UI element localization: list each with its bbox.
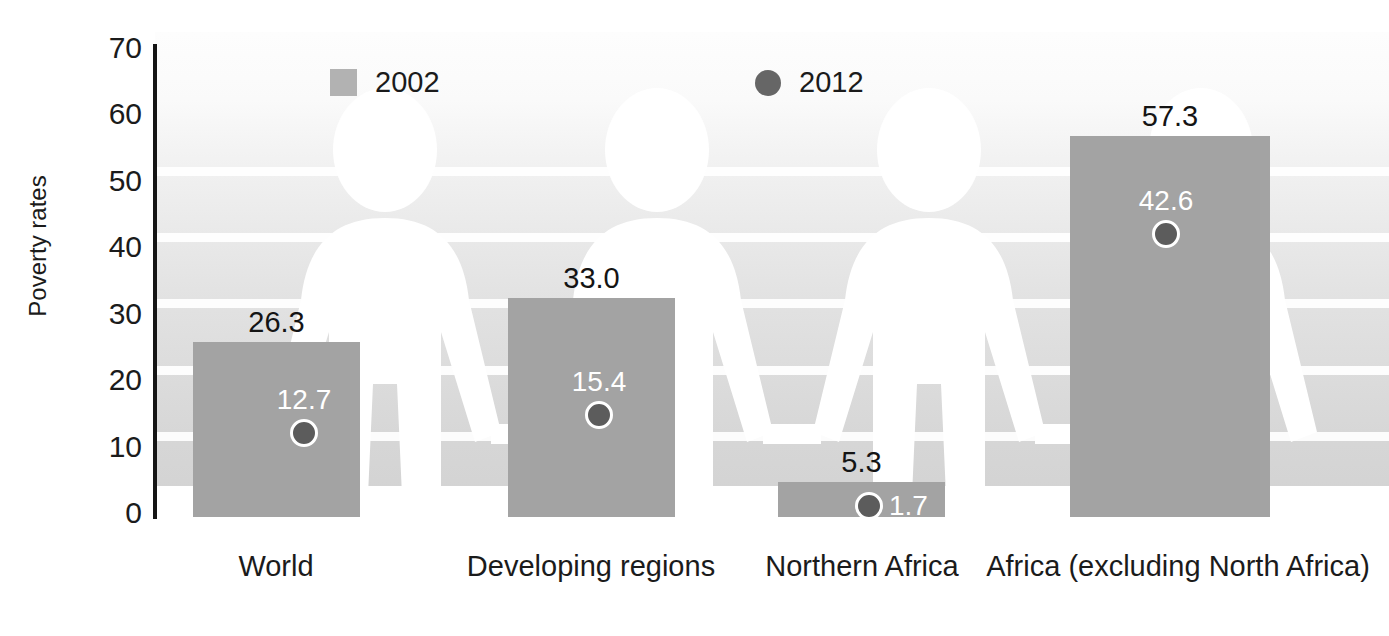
marker-developing-regions-2012[interactable] bbox=[585, 401, 613, 429]
y-tick-30: 30 bbox=[82, 299, 142, 329]
chart-legend: 2002 2012 bbox=[330, 68, 890, 102]
bar-value-world: 26.3 bbox=[193, 308, 360, 337]
y-tick-50: 50 bbox=[82, 166, 142, 196]
y-tick-40: 40 bbox=[82, 232, 142, 262]
legend-item-2012[interactable]: 2012 bbox=[755, 68, 864, 97]
marker-value-northern-africa: 1.7 bbox=[889, 492, 969, 520]
chart-canvas: 70 60 50 40 30 20 10 0 Poverty rates 200… bbox=[0, 0, 1389, 636]
bar-value-northern-africa: 5.3 bbox=[778, 448, 945, 477]
y-tick-70: 70 bbox=[82, 33, 142, 63]
category-label-world: World bbox=[186, 550, 366, 582]
y-tick-20: 20 bbox=[82, 365, 142, 395]
y-axis-tick-labels: 70 60 50 40 30 20 10 0 bbox=[70, 0, 142, 636]
marker-value-world: 12.7 bbox=[244, 386, 364, 414]
legend-label-2012: 2012 bbox=[799, 68, 864, 97]
category-label-africa-excluding-north-africa: Africa (excluding North Africa) bbox=[972, 550, 1384, 582]
y-axis-title: Poverty rates bbox=[24, 146, 52, 346]
y-axis-line bbox=[153, 44, 157, 519]
y-tick-0: 0 bbox=[82, 498, 142, 528]
marker-northern-africa-2012[interactable] bbox=[855, 492, 883, 520]
legend-label-2002: 2002 bbox=[375, 68, 440, 97]
square-swatch-icon bbox=[330, 69, 357, 96]
category-label-northern-africa: Northern Africa bbox=[752, 550, 972, 582]
marker-world-2012[interactable] bbox=[290, 419, 318, 447]
bar-value-africa-excluding-north-africa: 57.3 bbox=[1070, 102, 1270, 131]
bar-world[interactable] bbox=[193, 342, 360, 517]
category-label-developing-regions: Developing regions bbox=[461, 550, 721, 582]
bar-value-developing-regions: 33.0 bbox=[508, 264, 675, 293]
legend-item-2002[interactable]: 2002 bbox=[330, 68, 440, 97]
marker-value-africa-excluding-north-africa: 42.6 bbox=[1106, 187, 1226, 215]
y-tick-60: 60 bbox=[82, 99, 142, 129]
marker-value-developing-regions: 15.4 bbox=[539, 368, 659, 396]
marker-africa-excluding-north-africa-2012[interactable] bbox=[1152, 220, 1180, 248]
y-tick-10: 10 bbox=[82, 432, 142, 462]
circle-swatch-icon bbox=[755, 70, 781, 96]
